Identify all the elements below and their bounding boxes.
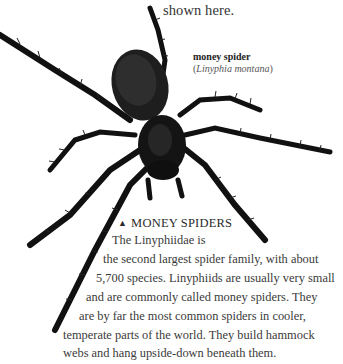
book-page: shown here. money spider (Linyphia monta… — [0, 0, 343, 364]
triangle-up-icon: ▲ — [118, 218, 127, 228]
body-text-line: 5,700 species. Linyphiids are usually ve… — [96, 271, 335, 286]
body-text-line: and are commonly called money spiders. T… — [86, 290, 317, 305]
body-text-line: temperate parts of the world. They build… — [63, 328, 315, 343]
body-text-line: are by far the most common spiders in co… — [79, 309, 306, 324]
body-text-line: The Linyphiidae is — [112, 233, 206, 248]
section-heading-text: MONEY SPIDERS — [131, 216, 232, 230]
caption-common-name: money spider — [193, 51, 273, 63]
intro-text-tail: shown here. — [163, 2, 234, 19]
figure-caption: money spider (Linyphia montana) — [193, 51, 273, 75]
body-text-line: webs and hang upside-down beneath them. — [63, 346, 276, 361]
body-text-line: the second largest spider family, with a… — [103, 252, 318, 267]
section-heading: ▲MONEY SPIDERS — [118, 216, 232, 231]
caption-latin-name: (Linyphia montana) — [193, 63, 273, 75]
